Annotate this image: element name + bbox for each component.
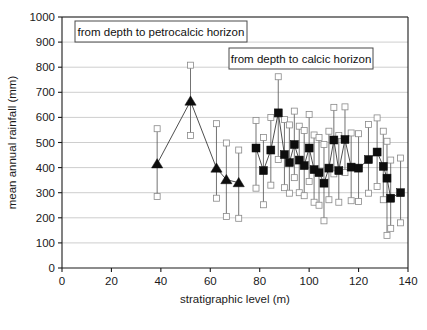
- error-cap-upper: [348, 130, 354, 136]
- legend-group: from depth to petrocalcic horizonfrom de…: [75, 21, 373, 69]
- data-point-square: [373, 148, 381, 156]
- data-point-square: [347, 163, 355, 171]
- x-axis-title: stratigraphic level (m): [180, 293, 290, 305]
- x-axis-ticks: 020406080100120140: [59, 268, 418, 287]
- error-cap-lower: [316, 202, 322, 208]
- data-point-square: [280, 151, 288, 159]
- data-point-square: [274, 109, 282, 117]
- error-cap-lower: [321, 218, 327, 224]
- error-cap-lower: [286, 190, 292, 196]
- x-tick-label: 20: [105, 275, 118, 287]
- error-cap-upper: [380, 128, 386, 134]
- x-tick-label: 60: [204, 275, 217, 287]
- error-cap-lower: [348, 198, 354, 204]
- error-cap-lower: [223, 214, 229, 220]
- error-cap-upper: [342, 104, 348, 110]
- error-cap-lower: [374, 183, 380, 189]
- data-point-square: [252, 144, 260, 152]
- y-tick-label: 700: [36, 86, 55, 98]
- y-tick-label: 600: [36, 111, 55, 123]
- error-cap-upper: [260, 134, 266, 140]
- error-cap-lower: [291, 175, 297, 181]
- error-cap-upper: [275, 74, 281, 80]
- x-tick-label: 0: [59, 275, 65, 287]
- data-point-square: [305, 144, 313, 152]
- error-cap-upper: [154, 126, 160, 132]
- error-cap-lower: [188, 132, 194, 138]
- error-cap-upper: [374, 115, 380, 121]
- error-cap-upper: [286, 122, 292, 128]
- data-point-square: [300, 162, 308, 170]
- data-point-square: [290, 141, 298, 149]
- error-cap-lower: [326, 197, 332, 203]
- x-tick-label: 100: [300, 275, 319, 287]
- data-point-square: [267, 146, 275, 154]
- error-cap-lower: [301, 193, 307, 199]
- error-cap-lower: [154, 193, 160, 199]
- error-cap-lower: [253, 185, 259, 191]
- x-tick-label: 140: [398, 275, 417, 287]
- y-tick-label: 900: [36, 36, 55, 48]
- error-cap-lower: [336, 199, 342, 205]
- y-tick-label: 200: [36, 212, 55, 224]
- error-cap-upper: [253, 117, 259, 123]
- legend-calcic-label: from depth to calcic horizon: [231, 53, 372, 65]
- data-point-square: [383, 174, 391, 182]
- error-cap-upper: [356, 131, 362, 137]
- data-point-triangle: [221, 174, 232, 183]
- data-point-square: [285, 159, 293, 167]
- y-tick-label: 1000: [29, 11, 55, 23]
- error-cap-upper: [223, 140, 229, 146]
- data-point-square: [330, 136, 338, 144]
- error-cap-lower: [356, 198, 362, 204]
- error-cap-lower: [213, 195, 219, 201]
- error-cap-upper: [384, 138, 390, 144]
- data-point-square: [320, 179, 328, 187]
- y-tick-label: 400: [36, 162, 55, 174]
- error-cap-lower: [306, 178, 312, 184]
- series-petrocalcic: [152, 62, 245, 221]
- error-cap-upper: [213, 121, 219, 127]
- error-cap-lower: [388, 225, 394, 231]
- x-tick-label: 40: [154, 275, 167, 287]
- data-point-triangle: [185, 96, 196, 105]
- error-cap-upper: [306, 111, 312, 117]
- error-cap-lower: [380, 197, 386, 203]
- rainfall-scatter-chart: 0100200300400500600700800900100002040608…: [0, 0, 427, 330]
- y-tick-label: 300: [36, 187, 55, 199]
- data-point-square: [335, 167, 343, 175]
- error-cap-lower: [268, 182, 274, 188]
- error-cap-upper: [388, 157, 394, 163]
- legend-petrocalcic-label: from depth to petrocalcic horizon: [78, 26, 245, 38]
- y-axis-ticks: 01002003004005006007008009001000: [29, 11, 62, 274]
- error-cap-upper: [236, 147, 242, 153]
- error-cap-upper: [398, 155, 404, 161]
- chart-figure: 0100200300400500600700800900100002040608…: [0, 0, 427, 330]
- error-cap-upper: [331, 104, 337, 110]
- error-cap-lower: [384, 232, 390, 238]
- data-point-square: [259, 167, 267, 175]
- y-tick-label: 0: [49, 262, 55, 274]
- data-point-square: [379, 162, 387, 170]
- error-cap-lower: [398, 220, 404, 226]
- data-point-square: [341, 135, 349, 143]
- data-point-square: [315, 169, 323, 177]
- error-cap-lower: [236, 215, 242, 221]
- error-cap-lower: [365, 190, 371, 196]
- y-tick-label: 100: [36, 237, 55, 249]
- x-tick-label: 120: [349, 275, 368, 287]
- error-cap-upper: [321, 142, 327, 148]
- error-cap-upper: [301, 127, 307, 133]
- error-cap-upper: [316, 134, 322, 140]
- data-point-square: [364, 156, 372, 164]
- data-point-triangle: [152, 159, 163, 168]
- error-cap-upper: [326, 128, 332, 134]
- y-axis-title: mean annual rainfall (mm): [6, 76, 18, 210]
- data-point-square: [397, 189, 405, 197]
- y-tick-label: 800: [36, 61, 55, 73]
- data-point-square: [355, 164, 363, 172]
- error-cap-upper: [291, 108, 297, 114]
- x-tick-label: 80: [253, 275, 266, 287]
- error-cap-upper: [365, 121, 371, 127]
- error-cap-upper: [268, 114, 274, 120]
